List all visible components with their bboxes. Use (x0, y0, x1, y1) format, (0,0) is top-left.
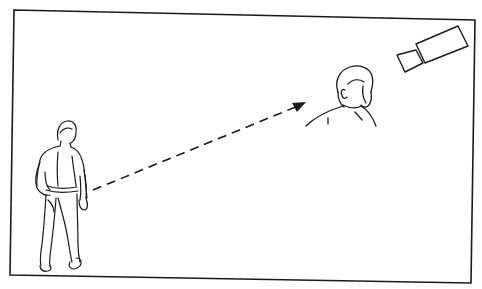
standing-man-figure (36, 121, 88, 271)
surveillance-camera-icon (397, 26, 468, 72)
illustration-canvas (0, 0, 482, 289)
dashed-arrow (93, 102, 306, 190)
border-frame (10, 10, 475, 283)
man-head-shoulders (306, 66, 376, 126)
